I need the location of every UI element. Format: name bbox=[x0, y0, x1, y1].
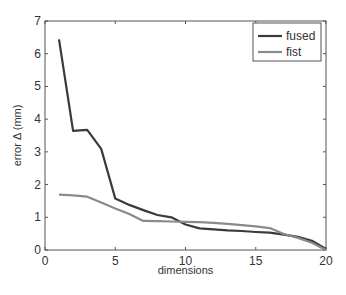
y-tick-label: 0 bbox=[34, 243, 41, 257]
y-tick-label: 1 bbox=[34, 210, 41, 224]
x-tick-label: 5 bbox=[112, 254, 119, 268]
x-tick-label: 20 bbox=[319, 254, 333, 268]
data-lines bbox=[59, 39, 326, 250]
y-tick-label: 2 bbox=[34, 178, 41, 192]
y-tick-label: 4 bbox=[34, 112, 41, 126]
x-tick-label: 15 bbox=[249, 254, 263, 268]
chart-canvas: 0510152001234567 fusedfist dimensions er… bbox=[0, 0, 346, 295]
legend-label-fist: fist bbox=[286, 45, 302, 59]
y-tick-label: 5 bbox=[34, 79, 41, 93]
line-chart: 0510152001234567 fusedfist dimensions er… bbox=[0, 0, 346, 295]
legend-label-fused: fused bbox=[286, 29, 315, 43]
legend: fusedfist bbox=[253, 23, 321, 61]
y-axis-label: error Δ (mm) bbox=[11, 105, 23, 167]
y-tick-label: 3 bbox=[34, 145, 41, 159]
series-line-fist bbox=[59, 195, 326, 250]
x-tick-label: 0 bbox=[42, 254, 49, 268]
series-line-fused bbox=[59, 39, 326, 249]
y-tick-label: 6 bbox=[34, 47, 41, 61]
y-tick-label: 7 bbox=[34, 14, 41, 28]
x-axis-label: dimensions bbox=[158, 264, 214, 276]
